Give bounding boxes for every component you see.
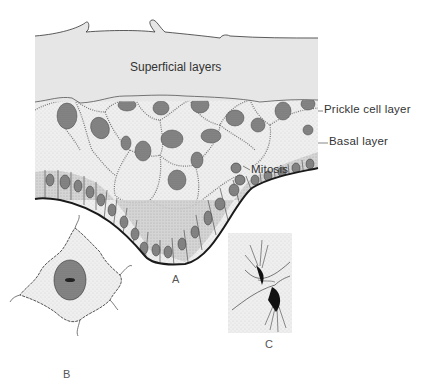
label-prickle-cell-layer: Prickle cell layer (324, 103, 411, 115)
desmosome-detail (228, 233, 292, 333)
panel-label-a: A (172, 273, 179, 285)
label-basal-layer: Basal layer (329, 135, 388, 147)
epidermis-diagram (0, 0, 421, 389)
label-superficial-layers: Superficial layers (130, 60, 221, 74)
panel-label-c: C (265, 338, 273, 350)
panel-label-b: B (63, 368, 70, 380)
label-mitosis: Mitosis (251, 163, 288, 175)
prickle-cell-detail (10, 215, 132, 336)
